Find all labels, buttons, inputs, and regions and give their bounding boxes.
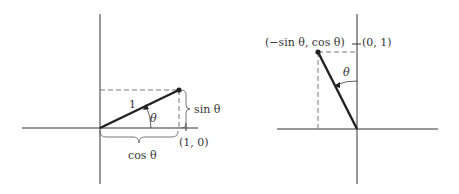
left-hypotenuse-label: 1 — [129, 99, 136, 110]
left-sin-label: sin θ — [194, 104, 220, 115]
right-vector-endpoint — [315, 49, 320, 54]
left-unit-vector — [100, 90, 179, 128]
right-point-label: (−sin θ, cos θ) — [265, 37, 345, 48]
left-cos-brace — [100, 131, 178, 143]
left-tick-label: (1, 0) — [179, 137, 209, 148]
diagram-canvas — [0, 0, 459, 194]
left-sin-brace — [181, 90, 190, 128]
left-cos-label: cos θ — [128, 150, 157, 161]
right-angle-label: θ — [343, 67, 350, 78]
left-vector-endpoint — [176, 87, 181, 92]
left-angle-label: θ — [150, 113, 157, 124]
right-tick-label: (0, 1) — [362, 37, 392, 48]
left-diagram — [22, 14, 198, 184]
right-unit-vector — [318, 52, 357, 129]
